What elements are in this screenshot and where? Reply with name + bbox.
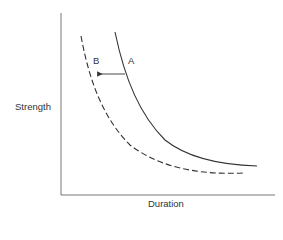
curve-a-label: A [128, 56, 134, 66]
x-axis-label: Duration [148, 199, 184, 209]
curve-b-label: B [93, 56, 99, 66]
curve-b [81, 36, 243, 173]
y-axis-label: Strength [15, 102, 51, 112]
curve-a [115, 32, 257, 166]
